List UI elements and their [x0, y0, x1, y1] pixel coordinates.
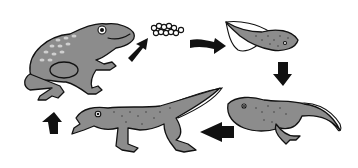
- stage-tadpole-with-legs: [228, 97, 341, 144]
- stage-adult-frog: [25, 24, 135, 100]
- arrow-icon: [200, 122, 234, 142]
- arrow-icon: [42, 112, 62, 134]
- arrow-icon: [190, 38, 226, 54]
- stage-froglet: [72, 88, 222, 152]
- life-cycle-diagram: [0, 0, 358, 168]
- arrow-icon: [273, 62, 292, 86]
- stage-tadpole: [226, 21, 298, 50]
- stage-eggs: [151, 23, 183, 35]
